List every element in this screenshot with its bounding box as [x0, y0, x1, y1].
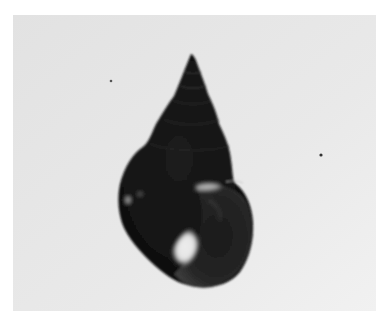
speck [319, 153, 322, 156]
snail-shell-photo [13, 15, 376, 311]
image-frame [0, 0, 388, 324]
speck [110, 80, 113, 83]
